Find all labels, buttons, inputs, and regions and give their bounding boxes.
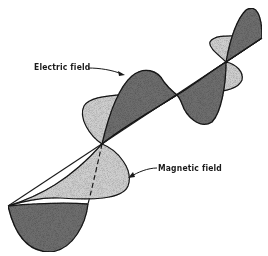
electric-leader-arrow bbox=[88, 68, 122, 74]
magnetic-field-label: Magnetic field bbox=[158, 163, 222, 173]
electric-lobe-1 bbox=[8, 203, 88, 252]
electric-lobe-3 bbox=[177, 62, 226, 124]
em-wave-diagram bbox=[0, 0, 268, 256]
electric-lobe-4 bbox=[226, 8, 262, 62]
magnetic-lobe-1 bbox=[8, 144, 129, 206]
electric-lobe-2 bbox=[102, 70, 177, 144]
electric-field-label: Electric field bbox=[34, 62, 90, 72]
electric-arrowhead-icon bbox=[118, 71, 125, 76]
